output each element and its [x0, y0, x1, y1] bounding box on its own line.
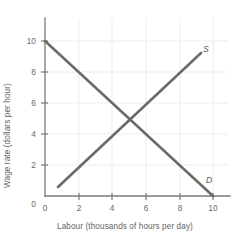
demand-curve-label: D [206, 175, 212, 185]
y-tick-label-8: 8 [22, 67, 36, 77]
y-tick-label-0: 0 [22, 199, 36, 209]
y-tick-label-6: 6 [22, 98, 36, 108]
x-tick-label-4: 4 [105, 203, 119, 213]
x-axis-title: Labour (thousands of hours per day) [57, 222, 193, 231]
labour-market-chart: Wage rate (dollars per hour) Labour (tho… [0, 0, 236, 239]
y-tick-label-10: 10 [22, 36, 36, 46]
x-tick-label-10: 10 [206, 203, 220, 213]
x-tick-label-8: 8 [173, 203, 187, 213]
y-axis-title-text: Wage rate (dollars per hour) [3, 83, 12, 188]
grid-lines [45, 18, 228, 196]
supply-curve-label: S [203, 44, 209, 54]
y-axis-title: Wage rate (dollars per hour) [0, 0, 18, 200]
x-tick-label-6: 6 [139, 203, 153, 213]
y-tick-label-4: 4 [22, 129, 36, 139]
x-tick-label-2: 2 [72, 203, 86, 213]
x-tick-label-0: 0 [38, 203, 52, 213]
y-tick-label-2: 2 [22, 160, 36, 170]
